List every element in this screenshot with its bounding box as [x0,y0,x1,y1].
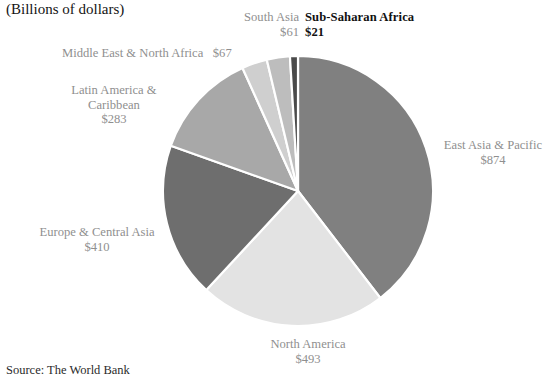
slice-label-latin-america-caribbean-name-line2: Caribbean [38,98,190,113]
slice-label-sub-saharan-africa-value: $21 [305,25,455,40]
slice-label-europe-central-asia: Europe & Central Asia $410 [12,225,182,254]
pie-chart: South Asia $61 Sub-Saharan Africa $21 Mi… [0,0,552,382]
slice-label-europe-central-asia-value: $410 [12,240,182,255]
slice-label-latin-america-caribbean-name-line1: Latin America & [38,83,190,98]
slice-label-latin-america-caribbean-value: $283 [38,112,190,127]
slice-label-middle-east-north-africa-name: Middle East & North Africa [62,46,203,60]
slice-label-sub-saharan-africa-name: Sub-Saharan Africa [305,10,455,25]
slice-label-latin-america-caribbean: Latin America & Caribbean $283 [38,83,190,127]
slice-label-east-asia-pacific-name: East Asia & Pacific [434,138,552,153]
slice-label-europe-central-asia-name: Europe & Central Asia [12,225,182,240]
slice-label-sub-saharan-africa: Sub-Saharan Africa $21 [305,10,455,39]
source-note: Source: The World Bank [6,362,130,378]
slice-label-south-asia-name: South Asia [215,10,299,25]
slice-label-north-america-value: $493 [238,352,378,367]
slice-label-south-asia: South Asia $61 [215,10,299,39]
slice-label-middle-east-north-africa-value: $67 [213,46,232,60]
slice-label-north-america-name: North America [238,337,378,352]
slice-label-north-america: North America $493 [238,337,378,366]
slice-label-east-asia-pacific: East Asia & Pacific $874 [434,138,552,167]
slice-label-east-asia-pacific-value: $874 [434,153,552,168]
slice-label-south-asia-value: $61 [215,25,299,40]
pie-slices [163,56,433,326]
slice-label-middle-east-north-africa: Middle East & North Africa $67 [62,46,292,61]
chart-screenshot: (Billions of dollars) South Asia $61 Sub… [0,0,552,382]
